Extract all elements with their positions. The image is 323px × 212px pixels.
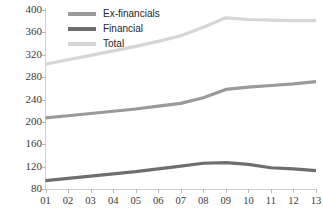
legend-item: Financial	[68, 22, 160, 35]
legend-item: Total	[68, 37, 160, 50]
x-axis-tick-label: 04	[101, 195, 125, 206]
chart-legend: Ex-financialsFinancialTotal	[68, 7, 160, 50]
x-axis-tick-label: 10	[236, 195, 260, 206]
legend-swatch-icon	[68, 27, 96, 31]
x-axis-tick-label: 05	[124, 195, 148, 206]
x-axis-tick-labels: 01020304050607080910111213	[0, 0, 323, 212]
x-axis-tick-label: 02	[56, 195, 80, 206]
x-axis-tick-label: 01	[34, 195, 58, 206]
legend-swatch-icon	[68, 42, 96, 46]
line-chart: 80120160200240280320360400 0102030405060…	[0, 0, 323, 212]
x-axis-tick-label: 12	[281, 195, 305, 206]
legend-item-label: Ex-financials	[103, 8, 160, 20]
legend-item: Ex-financials	[68, 7, 160, 20]
legend-item-label: Financial	[103, 23, 143, 35]
x-axis-tick-label: 06	[146, 195, 170, 206]
x-axis-tick-label: 08	[191, 195, 215, 206]
x-axis-tick-label: 13	[304, 195, 323, 206]
x-axis-tick-label: 09	[214, 195, 238, 206]
legend-item-label: Total	[103, 38, 124, 50]
x-axis-tick-label: 11	[259, 195, 283, 206]
x-axis-tick-label: 03	[79, 195, 103, 206]
legend-swatch-icon	[68, 12, 96, 16]
x-axis-tick-label: 07	[169, 195, 193, 206]
